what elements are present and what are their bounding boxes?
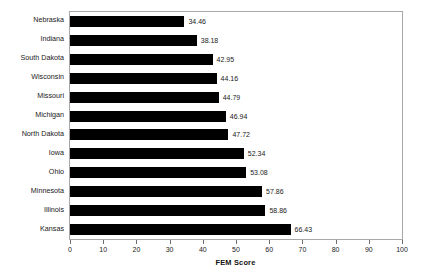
category-label: Illinois	[44, 206, 64, 213]
tick-label: 0	[68, 245, 72, 254]
category-label: Indiana	[40, 35, 64, 42]
bar	[70, 16, 184, 27]
category-label: Minnesota	[31, 187, 64, 194]
bar	[70, 35, 197, 46]
tick-label: 90	[365, 245, 373, 254]
tick-label: 80	[332, 245, 340, 254]
bar	[70, 148, 244, 159]
tick-mark	[302, 240, 303, 244]
tick-mark	[203, 240, 204, 244]
tick-mark	[70, 240, 71, 244]
category-label: Ohio	[49, 168, 64, 175]
bar-series: 34.4638.1842.9544.1644.7946.9447.7252.34…	[70, 12, 402, 239]
tick-mark	[336, 240, 337, 244]
bar-value-label: 53.08	[250, 168, 268, 177]
tick-label: 30	[166, 245, 174, 254]
tick-mark	[369, 240, 370, 244]
bar-value-label: 44.79	[223, 93, 241, 102]
category-label: North Dakota	[22, 130, 64, 137]
x-axis-title-text: FEM Score	[216, 258, 256, 267]
category-label: Iowa	[49, 149, 64, 156]
bar	[70, 111, 226, 122]
bar-value-label: 47.72	[232, 130, 250, 139]
category-label: Nebraska	[33, 16, 64, 23]
category-axis-labels: NebraskaIndianaSouth DakotaWisconsinMiss…	[0, 11, 64, 240]
fem-score-bar-chart: NebraskaIndianaSouth DakotaWisconsinMiss…	[0, 0, 427, 276]
bar-value-label: 34.46	[188, 17, 206, 26]
bar-value-label: 44.16	[221, 74, 239, 83]
tick-label: 20	[132, 245, 140, 254]
bar	[70, 186, 262, 197]
bar	[70, 224, 291, 235]
tick-label: 50	[232, 245, 240, 254]
bar-value-label: 52.34	[248, 149, 266, 158]
category-label: South Dakota	[20, 54, 64, 61]
tick-mark	[402, 240, 403, 244]
tick-mark	[170, 240, 171, 244]
bar-value-label: 46.94	[230, 112, 248, 121]
bar	[70, 167, 246, 178]
tick-mark	[236, 240, 237, 244]
category-label: Missouri	[37, 92, 64, 99]
bar-value-label: 66.43	[295, 225, 313, 234]
category-label: Kansas	[40, 225, 64, 232]
bar	[70, 73, 217, 84]
bar-value-label: 57.86	[266, 187, 284, 196]
tick-label: 70	[298, 245, 306, 254]
bar	[70, 54, 213, 65]
x-axis-title: FEM Score	[0, 258, 427, 267]
bar	[70, 92, 219, 103]
category-label: Wisconsin	[31, 73, 64, 80]
bar-value-label: 42.95	[217, 55, 235, 64]
tick-label: 40	[199, 245, 207, 254]
tick-mark	[136, 240, 137, 244]
tick-label: 60	[265, 245, 273, 254]
bar	[70, 129, 228, 140]
bar-value-label: 58.86	[269, 206, 287, 215]
tick-label: 100	[396, 245, 408, 254]
tick-mark	[103, 240, 104, 244]
bar-value-label: 38.18	[201, 36, 219, 45]
value-axis-ticks: 0102030405060708090100	[69, 240, 404, 256]
category-label: Michigan	[35, 111, 64, 118]
tick-label: 10	[99, 245, 107, 254]
bar	[70, 205, 265, 216]
tick-mark	[269, 240, 270, 244]
